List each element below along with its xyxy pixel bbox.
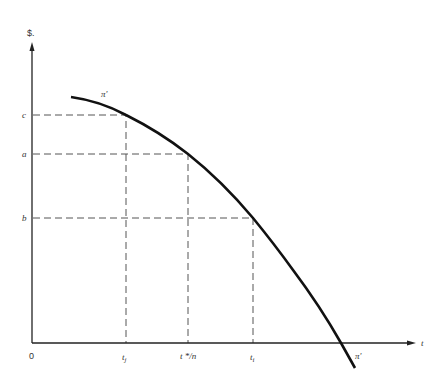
y-tick-c: c bbox=[22, 110, 26, 120]
x-axis-label: t bbox=[421, 338, 424, 348]
axes bbox=[30, 42, 417, 346]
x-tick-tj: tj bbox=[122, 352, 127, 364]
curve-label-bottom: π' bbox=[355, 351, 363, 361]
curve-label-top: π' bbox=[101, 89, 109, 99]
reference-lines bbox=[33, 115, 253, 343]
x-tick-ti: ti bbox=[250, 352, 255, 364]
y-axis-arrow-icon bbox=[30, 42, 35, 51]
ref-line-b bbox=[33, 218, 253, 343]
ref-line-a bbox=[33, 154, 188, 343]
y-axis-label: $. bbox=[27, 28, 35, 38]
y-tick-a: a bbox=[22, 149, 27, 159]
origin-label: 0 bbox=[29, 351, 34, 361]
x-tick-tj-sub: j bbox=[124, 356, 127, 364]
x-tick-tstar-sub: /n bbox=[188, 351, 197, 361]
y-tick-b: b bbox=[22, 213, 27, 223]
profit-curve bbox=[71, 97, 355, 368]
x-tick-ti-sub: i bbox=[253, 356, 255, 364]
x-axis-arrow-icon bbox=[407, 341, 416, 346]
chart-canvas: $. t 0 c a b tj t */n ti π' π' bbox=[0, 0, 441, 382]
ref-line-c bbox=[33, 115, 126, 343]
x-tick-tstar: t */n bbox=[180, 351, 197, 361]
